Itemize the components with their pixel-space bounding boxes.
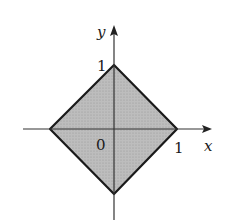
x-axis-label: x bbox=[204, 137, 213, 155]
origin-label: 0 bbox=[96, 136, 106, 154]
x-tick-label: 1 bbox=[174, 139, 184, 157]
y-tick-label: 1 bbox=[97, 57, 107, 75]
diagram-canvas: y 1 0 1 x bbox=[0, 0, 227, 224]
y-axis-label: y bbox=[96, 23, 106, 41]
